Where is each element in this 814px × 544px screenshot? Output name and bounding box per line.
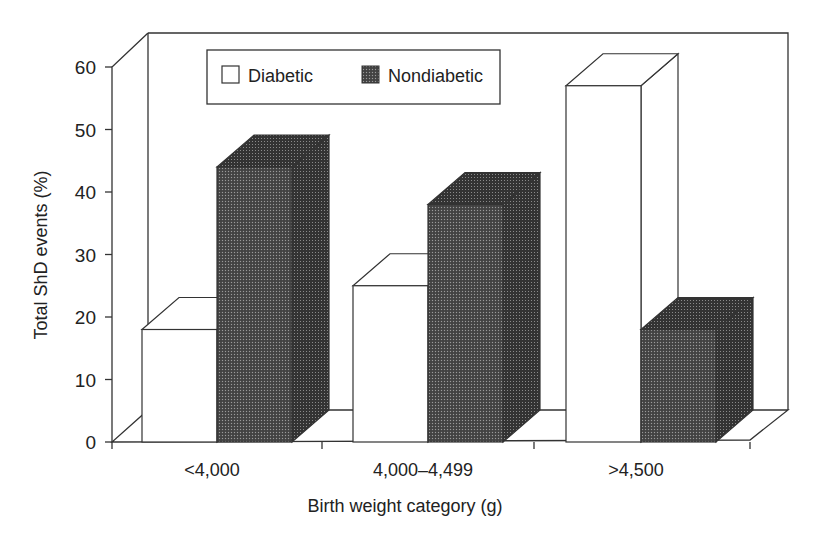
bars-group	[142, 54, 753, 442]
legend-swatch-diabetic	[222, 66, 239, 83]
y-tick-label: 40	[75, 182, 96, 203]
x-category-label: <4,000	[184, 460, 240, 480]
y-axis: 0102030405060	[75, 57, 112, 453]
x-axis: <4,0004,000–4,499>4,500	[112, 442, 750, 480]
bar-nondiabetic	[641, 298, 753, 443]
legend: Diabetic Nondiabetic	[207, 50, 500, 104]
y-tick-label: 50	[75, 120, 96, 141]
bar-chart: 0102030405060 <4,0004,000–4,499>4,500 Di…	[0, 0, 814, 544]
y-axis-title: Total ShD events (%)	[31, 170, 51, 339]
bar-nondiabetic	[217, 135, 329, 442]
x-axis-title: Birth weight category (g)	[307, 496, 502, 516]
bar-nondiabetic	[428, 173, 540, 443]
y-tick-label: 30	[75, 245, 96, 266]
y-tick-label: 60	[75, 57, 96, 78]
legend-label-diabetic: Diabetic	[248, 66, 313, 86]
y-tick-label: 0	[85, 432, 96, 453]
y-tick-label: 10	[75, 370, 96, 391]
x-category-label: >4,500	[608, 460, 664, 480]
x-category-label: 4,000–4,499	[373, 460, 473, 480]
y-tick-label: 20	[75, 307, 96, 328]
legend-label-nondiabetic: Nondiabetic	[388, 66, 483, 86]
legend-swatch-nondiabetic	[362, 66, 379, 83]
